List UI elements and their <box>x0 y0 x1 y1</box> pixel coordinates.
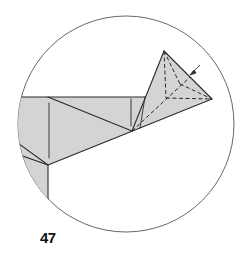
model-body <box>0 97 145 205</box>
origami-diagram <box>0 0 248 264</box>
arrow-icon <box>190 65 200 75</box>
step-number: 47 <box>40 229 56 246</box>
paper-flap <box>132 51 212 131</box>
